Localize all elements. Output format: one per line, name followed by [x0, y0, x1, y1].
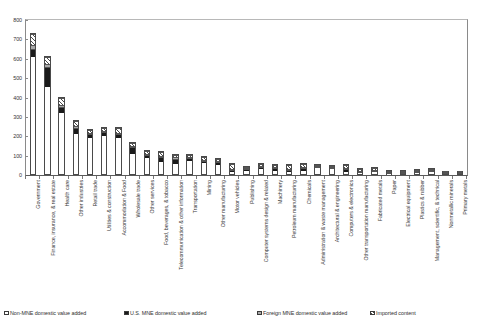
stacked-bar[interactable] [101, 127, 107, 175]
stacked-bar[interactable] [414, 169, 420, 175]
stacked-bar[interactable] [371, 167, 377, 175]
x-axis-tick-mark [366, 176, 367, 179]
bar-group[interactable] [87, 129, 93, 175]
x-axis-category-label: Management, scientific, & technical [433, 180, 438, 261]
x-axis-category-text: Fabricated metals [378, 180, 383, 221]
plot-frame [25, 19, 468, 176]
bar-segment [159, 162, 163, 174]
bar-group[interactable] [371, 167, 377, 175]
bar-group[interactable] [442, 171, 448, 175]
bar-group[interactable] [172, 154, 178, 175]
bar-segment [116, 138, 120, 174]
legend-label: Foreign MNE domestic value added [263, 310, 347, 316]
bar-segment [59, 113, 63, 174]
x-axis-tick-mark [210, 176, 211, 179]
bar-group[interactable] [386, 170, 392, 175]
stacked-bar[interactable] [73, 120, 79, 175]
x-axis-category-label: Wholesale trade [134, 180, 139, 218]
stacked-bar[interactable] [329, 165, 335, 175]
bar-group[interactable] [58, 97, 64, 175]
stacked-bar[interactable] [357, 168, 363, 175]
stacked-bar[interactable] [258, 163, 264, 175]
x-axis-category-text: Electrical equipment [406, 180, 411, 227]
bar-group[interactable] [343, 164, 349, 175]
bar-group[interactable] [201, 156, 207, 175]
x-axis-category-text: Architectural & engineering [335, 180, 340, 242]
stacked-bar[interactable] [386, 170, 392, 175]
stacked-bar[interactable] [300, 163, 306, 175]
bar-group[interactable] [457, 171, 463, 175]
legend-label: U.S. MNE domestic value added [130, 310, 206, 316]
y-axis-tick-label: 700 [13, 36, 22, 42]
stacked-bar[interactable] [129, 142, 135, 175]
bar-group[interactable] [272, 164, 278, 175]
legend-item[interactable]: Imported content [370, 310, 416, 316]
bar-group[interactable] [129, 142, 135, 175]
stacked-bar[interactable] [144, 150, 150, 175]
stacked-bar[interactable] [286, 164, 292, 175]
stacked-bar[interactable] [229, 163, 235, 175]
bar-group[interactable] [314, 164, 320, 175]
bar-group[interactable] [215, 158, 221, 175]
stacked-bar[interactable] [44, 56, 50, 175]
stacked-bar[interactable] [314, 164, 320, 175]
stacked-bar[interactable] [30, 33, 36, 175]
x-axis-tick-mark [352, 176, 353, 179]
x-axis-tick-mark [438, 176, 439, 179]
bar-group[interactable] [115, 127, 121, 175]
bar-group[interactable] [329, 165, 335, 175]
x-axis-category-label: Retail trade [91, 180, 96, 207]
bar-segment [173, 164, 177, 174]
y-axis-tick-label: 100 [13, 153, 22, 159]
stacked-bar[interactable] [442, 171, 448, 175]
y-axis-tick-label: 200 [13, 133, 22, 139]
bar-group[interactable] [243, 166, 249, 175]
stacked-bar[interactable] [158, 151, 164, 175]
stacked-bar[interactable] [272, 164, 278, 175]
bar-group[interactable] [400, 170, 406, 175]
x-axis-category-label: Primary metals [461, 180, 466, 215]
bar-group[interactable] [286, 164, 292, 175]
bar-segment [31, 57, 35, 174]
stacked-bar[interactable] [400, 170, 406, 175]
stacked-bar[interactable] [343, 164, 349, 175]
stacked-bar[interactable] [457, 171, 463, 175]
stacked-bar[interactable] [428, 168, 434, 175]
legend-item[interactable]: Non-MNE domestic value added [4, 310, 86, 316]
x-axis-tick-mark [167, 176, 168, 179]
x-axis-category-label: Architectural & engineering [333, 180, 338, 242]
bar-group[interactable] [44, 56, 50, 175]
x-axis-tick-mark [25, 176, 26, 179]
stacked-bar[interactable] [215, 158, 221, 175]
stacked-bar[interactable] [201, 156, 207, 175]
x-axis-category-label: Fabricated metals [376, 180, 381, 221]
bar-group[interactable] [73, 120, 79, 175]
x-axis-category-text: Nonmetallic minerals [449, 180, 454, 228]
stacked-bar[interactable] [186, 154, 192, 175]
bar-segment [45, 57, 49, 65]
stacked-bar[interactable] [87, 129, 93, 175]
bar-group[interactable] [414, 169, 420, 175]
bar-segment [244, 171, 248, 174]
bar-group[interactable] [428, 168, 434, 175]
bar-group[interactable] [144, 150, 150, 175]
bar-group[interactable] [300, 163, 306, 175]
y-axis-tick-label: 800 [13, 17, 22, 23]
legend-item[interactable]: Foreign MNE domestic value added [257, 310, 347, 316]
bar-group[interactable] [30, 33, 36, 175]
legend-item[interactable]: U.S. MNE domestic value added [124, 310, 206, 316]
x-axis-category-label: Other manufacturing [219, 180, 224, 227]
bar-group[interactable] [258, 163, 264, 175]
stacked-bar[interactable] [115, 127, 121, 175]
x-axis-tick-mark [238, 176, 239, 179]
stacked-bar[interactable] [58, 97, 64, 175]
x-axis-category-label: Electrical equipment [404, 180, 409, 227]
stacked-bar[interactable] [172, 154, 178, 175]
stacked-bar[interactable] [243, 166, 249, 175]
bar-group[interactable] [357, 168, 363, 175]
bar-group[interactable] [101, 127, 107, 175]
bar-group[interactable] [186, 154, 192, 175]
legend-label: Non-MNE domestic value added [10, 310, 86, 316]
bar-group[interactable] [158, 151, 164, 175]
bar-group[interactable] [229, 163, 235, 175]
